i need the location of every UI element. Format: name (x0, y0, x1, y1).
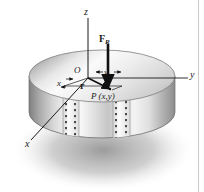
y-dimension-label: y (104, 68, 108, 77)
y-axis-label: y (190, 70, 194, 80)
point-P-marker (109, 88, 111, 90)
page-rule (198, 0, 199, 192)
x-dimension-label: x (57, 79, 61, 88)
point-P-label: P (x,y) (91, 92, 115, 101)
position-vector-label: r (80, 81, 84, 91)
force-subscript: R (105, 38, 110, 46)
force-vector-label: FR (99, 34, 110, 46)
x-axis-label: x (25, 139, 29, 149)
origin-label: O (74, 66, 81, 75)
physics-figure: z y x O x y P (x,y) r FR (0, 0, 204, 192)
z-axis-label: z (84, 7, 88, 17)
